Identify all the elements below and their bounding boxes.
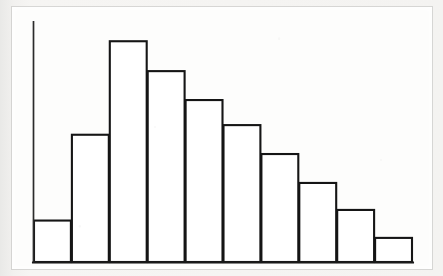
- histogram-bar: [299, 183, 336, 262]
- histogram-bar: [72, 135, 109, 262]
- histogram-bar: [375, 238, 412, 262]
- histogram-svg: [0, 0, 443, 276]
- histogram-chart: [0, 0, 443, 276]
- histogram-bar: [261, 154, 298, 262]
- histogram-bar: [186, 100, 223, 262]
- histogram-bar: [224, 125, 261, 262]
- bars-group: [34, 41, 412, 262]
- histogram-bar: [148, 71, 185, 262]
- scanned-page: [0, 0, 443, 276]
- histogram-bar: [337, 210, 374, 262]
- histogram-bar: [110, 41, 147, 262]
- histogram-bar: [34, 221, 71, 262]
